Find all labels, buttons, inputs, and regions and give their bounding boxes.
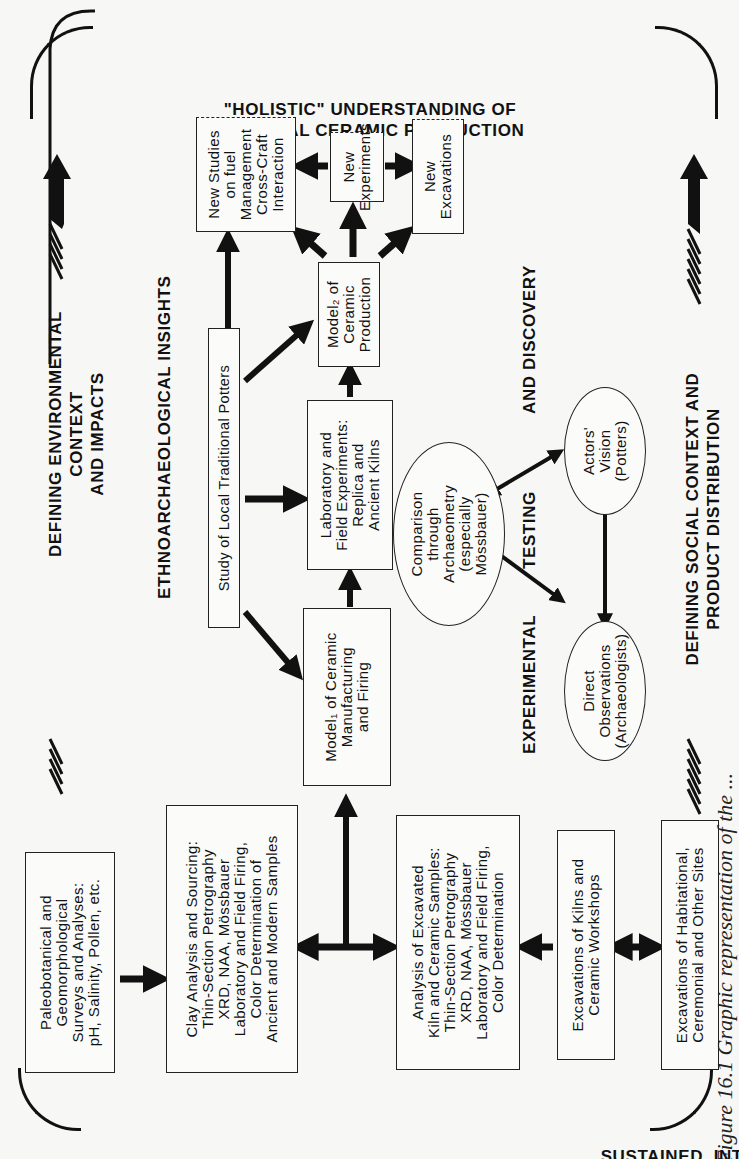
figure-caption: Figure 16.1 Graphic representation of th… [712, 773, 738, 1159]
arrow-model2-newstudies [300, 234, 325, 256]
new-experiments-box: New Experiments [330, 132, 384, 202]
left-context-arrow [43, 154, 71, 279]
excavations-habitational-box: Excavations of Habitational, Ceremonial … [661, 820, 719, 1070]
new-studies-box: New Studies on fuel Management Cross-Cra… [196, 117, 296, 232]
model1-box: Model₁ of Ceramic Manufacturing and Firi… [303, 608, 391, 786]
new-excavations-box: New Excavations [412, 119, 464, 234]
arrow-comparison-actors [492, 453, 558, 492]
actors-vision-ellipse: Actors' Vision (Potters) [564, 387, 646, 515]
testing-label: TESTING [520, 491, 539, 569]
clay-analysis-box: Clay Analysis and Sourcing: Thin-Section… [166, 805, 298, 1073]
environmental-context-label: DEFINING ENVIRONMENTAL CONTEXT AND IMPAC… [45, 269, 108, 599]
ethnoarchaeological-label: ETHNOARCHAEOLOGICAL INSIGHTS [155, 276, 174, 599]
study-local-potters-box: Study of Local Traditional Potters [208, 328, 240, 628]
excavations-kilns-box: Excavations of Kilns and Ceramic Worksho… [557, 830, 615, 1060]
experimental-label: EXPERIMENTAL [520, 615, 539, 754]
direct-observations-ellipse: Direct Observations (Archaeologists) [564, 621, 646, 761]
and-discovery-label: AND DISCOVERY [520, 265, 539, 414]
paleobotanical-box: Paleobotanical and Geomorphological Surv… [25, 852, 115, 1073]
lab-field-experiments-box: Laboratory and Field Experiments: Replic… [307, 400, 393, 570]
comparison-ellipse: Comparison through Archaeometry (especia… [393, 442, 505, 626]
right-context-arrow [680, 154, 708, 304]
arrow-potters-model1 [245, 612, 296, 672]
diagram-canvas: "HOLISTIC" UNDERSTANDING OF REGIONAL CER… [0, 0, 739, 1159]
analysis-excavated-box: Analysis of Excavated Kiln and Ceramic S… [396, 815, 520, 1070]
arrow-model2-newexcavations [380, 234, 405, 256]
left-hatch-start [50, 739, 62, 794]
model2-box: Model₂ of Ceramic Production [318, 262, 380, 367]
social-context-label: DEFINING SOCIAL CONTEXT AND PRODUCT DIST… [682, 309, 724, 729]
holistic-bracket-upper-arc [105, 39, 170, 56]
right-hatch-start [688, 739, 700, 814]
arrow-potters-model2 [245, 327, 306, 381]
